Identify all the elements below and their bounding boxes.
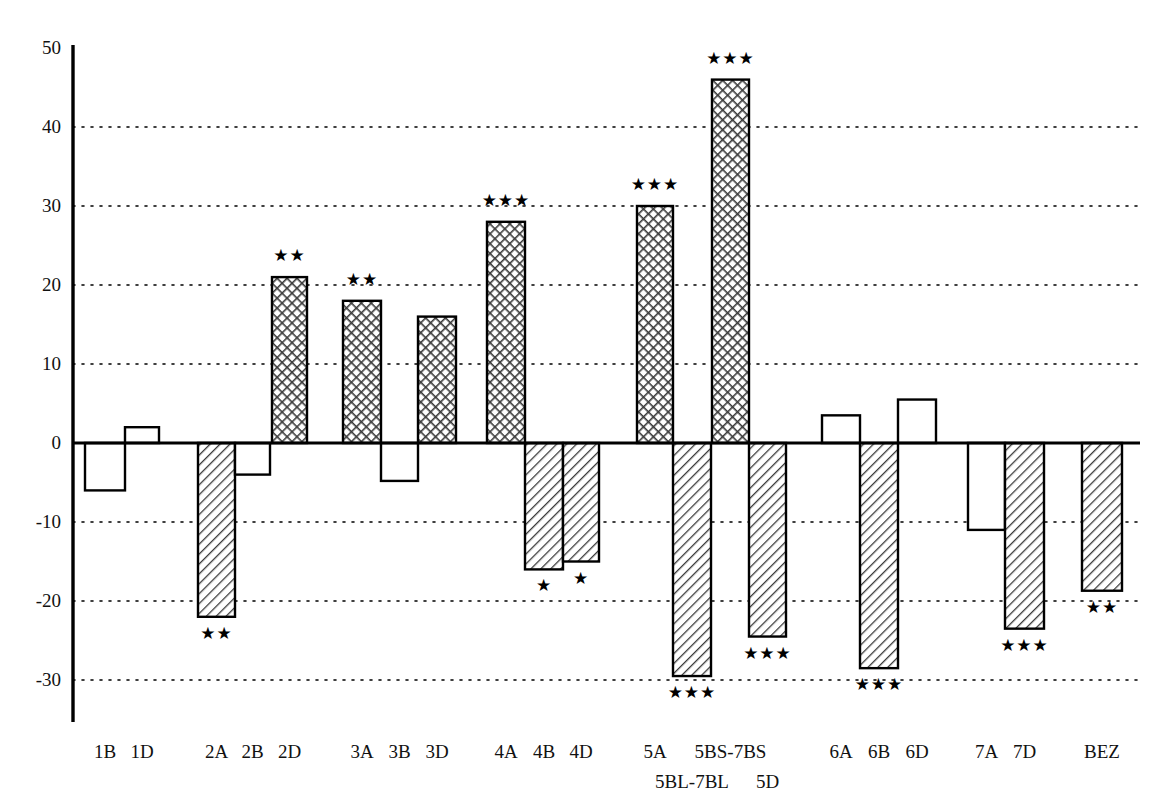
- y-tick-label: 20: [6, 275, 61, 294]
- axis-layer: [73, 45, 1140, 722]
- significance-marker: ★★★: [642, 684, 742, 701]
- y-tick-label: 50: [6, 38, 61, 57]
- y-tick-label: -10: [6, 512, 61, 531]
- y-tick-label: 0: [6, 433, 61, 452]
- bar[interactable]: [898, 400, 936, 443]
- significance-marker: ★★: [240, 247, 340, 264]
- bar[interactable]: [85, 443, 125, 490]
- bar[interactable]: [487, 222, 525, 443]
- significance-marker: ★★★: [829, 676, 929, 693]
- bar[interactable]: [525, 443, 563, 569]
- significance-marker: ★: [531, 570, 631, 587]
- y-tick-label: -20: [6, 591, 61, 610]
- significance-marker: ★★: [1052, 599, 1152, 616]
- bar[interactable]: [968, 443, 1005, 530]
- significance-marker: ★★★: [605, 176, 705, 193]
- bar[interactable]: [1005, 443, 1044, 629]
- bars-layer: [85, 80, 1122, 676]
- bar[interactable]: [1082, 443, 1122, 591]
- y-tick-label: 10: [6, 354, 61, 373]
- significance-marker: ★★: [312, 271, 412, 288]
- y-tick-label: 30: [6, 196, 61, 215]
- significance-marker: ★★★: [681, 50, 781, 67]
- significance-marker: ★★★: [975, 637, 1075, 654]
- significance-marker: ★★: [167, 625, 267, 642]
- bar[interactable]: [418, 317, 456, 443]
- chart-page: 50403020100-10-20-30 1B1D2A2B2D3A3B3D4A4…: [0, 0, 1167, 807]
- x-tick-label: 5BS-7BS: [681, 742, 781, 761]
- y-tick-label: -30: [6, 670, 61, 689]
- bar[interactable]: [198, 443, 235, 617]
- bar[interactable]: [563, 443, 599, 562]
- x-tick-label: BEZ: [1052, 742, 1152, 761]
- bar[interactable]: [637, 206, 673, 443]
- bar[interactable]: [712, 80, 749, 443]
- significance-marker: ★★★: [456, 192, 556, 209]
- bar[interactable]: [673, 443, 711, 676]
- bar-chart-svg: [0, 0, 1167, 807]
- bar[interactable]: [343, 301, 381, 443]
- bar[interactable]: [272, 277, 307, 443]
- bar[interactable]: [381, 443, 418, 481]
- y-tick-label: 40: [6, 117, 61, 136]
- significance-marker: ★★★: [718, 645, 818, 662]
- bar[interactable]: [860, 443, 898, 668]
- bar[interactable]: [749, 443, 786, 637]
- bar[interactable]: [822, 415, 860, 443]
- bar[interactable]: [125, 427, 159, 443]
- x-tick-label: 5D: [718, 772, 818, 791]
- bar[interactable]: [235, 443, 270, 475]
